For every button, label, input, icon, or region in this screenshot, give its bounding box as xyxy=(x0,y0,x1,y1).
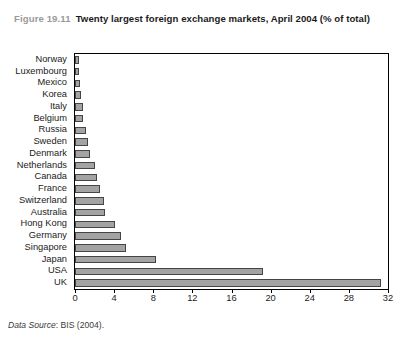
bar-row xyxy=(75,80,388,87)
bar-row xyxy=(75,209,388,216)
figure-container: Figure 19.11Twenty largest foreign excha… xyxy=(0,0,406,345)
source-prefix: Data Source xyxy=(8,320,56,330)
bar-series xyxy=(75,54,388,289)
bar xyxy=(75,209,105,216)
x-axis-ticklabel: 8 xyxy=(151,294,156,303)
y-axis-label: Netherlands xyxy=(17,161,67,170)
y-axis-label: Australia xyxy=(31,208,67,217)
y-axis-label: Norway xyxy=(35,55,67,64)
y-axis-label: Russia xyxy=(39,125,67,134)
bar-row xyxy=(75,244,388,251)
x-axis-ticklabel: 32 xyxy=(383,294,393,303)
bar xyxy=(75,138,88,145)
y-axis-label: Hong Kong xyxy=(20,219,67,228)
y-axis-label: USA xyxy=(48,266,67,275)
y-axis-label: Canada xyxy=(34,172,67,181)
y-axis-label: Germany xyxy=(29,231,67,240)
y-axis-label: Belgium xyxy=(33,114,67,123)
y-axis-label: Japan xyxy=(42,255,67,264)
bar-row xyxy=(75,232,388,239)
bar xyxy=(75,244,126,251)
y-axis-label: Switzerland xyxy=(19,196,67,205)
bar-row xyxy=(75,197,388,204)
y-axis-label: Singapore xyxy=(25,243,67,252)
bar xyxy=(75,162,95,169)
bar-row xyxy=(75,221,388,228)
y-axis-label: UK xyxy=(54,278,67,287)
bar-row xyxy=(75,115,388,122)
x-axis-ticklabel: 4 xyxy=(112,294,117,303)
x-axis-ticklabel: 24 xyxy=(305,294,315,303)
y-axis-label: Italy xyxy=(50,102,67,111)
bar xyxy=(75,150,90,157)
bar-row xyxy=(75,162,388,169)
figure-caption: Figure 19.11Twenty largest foreign excha… xyxy=(14,8,398,26)
plot-area xyxy=(75,54,388,289)
bar-row xyxy=(75,127,388,134)
y-axis-label: Korea xyxy=(42,90,67,99)
bar xyxy=(75,268,263,275)
y-axis-label: France xyxy=(38,184,67,193)
figure-source: Data Source: BIS (2004). xyxy=(8,320,104,330)
bar xyxy=(75,115,83,122)
bar xyxy=(75,127,86,134)
bar xyxy=(75,197,104,204)
y-axis-label: Mexico xyxy=(38,78,67,87)
source-text: : BIS (2004). xyxy=(56,320,104,330)
x-axis-ticks: 048121620242832 xyxy=(75,290,388,310)
bar xyxy=(75,103,83,110)
figure-number: Figure 19.11 xyxy=(14,13,71,24)
bar-row xyxy=(75,174,388,181)
bar-row xyxy=(75,56,388,63)
bar xyxy=(75,221,115,228)
bar-row xyxy=(75,138,388,145)
bar xyxy=(75,279,381,286)
bar xyxy=(75,256,156,263)
x-axis-ticklabel: 12 xyxy=(187,294,197,303)
bar xyxy=(75,80,80,87)
y-axis-label: Denmark xyxy=(29,149,67,158)
bar-row xyxy=(75,91,388,98)
bar xyxy=(75,68,79,75)
bar xyxy=(75,56,79,63)
bar-row xyxy=(75,256,388,263)
x-axis-ticklabel: 16 xyxy=(226,294,236,303)
y-axis-label: Luxembourg xyxy=(15,67,67,76)
bar-row xyxy=(75,185,388,192)
bar-row xyxy=(75,279,388,286)
bar xyxy=(75,174,97,181)
y-axis-labels: NorwayLuxembourgMexicoKoreaItalyBelgiumR… xyxy=(0,54,71,289)
bar xyxy=(75,232,121,239)
bar xyxy=(75,91,81,98)
x-axis-ticklabel: 28 xyxy=(344,294,354,303)
bar xyxy=(75,185,100,192)
x-axis-ticklabel: 0 xyxy=(72,294,77,303)
bar-row xyxy=(75,150,388,157)
bar-row xyxy=(75,268,388,275)
x-axis-ticklabel: 20 xyxy=(265,294,275,303)
bar-row xyxy=(75,68,388,75)
bar-row xyxy=(75,103,388,110)
y-axis-label: Sweden xyxy=(33,137,67,146)
figure-title: Twenty largest foreign exchange markets,… xyxy=(76,13,370,24)
